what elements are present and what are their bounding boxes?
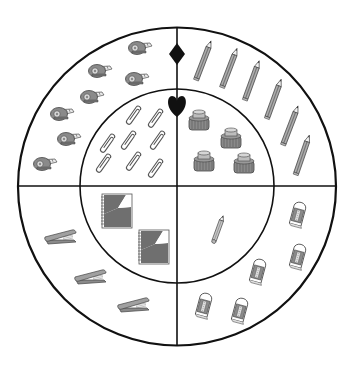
notebook-icon bbox=[138, 230, 169, 264]
notebook-icon bbox=[101, 194, 132, 228]
sorting-circle-diagram bbox=[0, 0, 353, 371]
